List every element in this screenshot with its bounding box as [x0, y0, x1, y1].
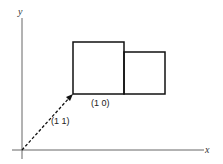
- edge-label: (1 0): [91, 98, 110, 108]
- diagram-canvas: y x (1 1) (1 0): [0, 0, 223, 164]
- small-rectangle: [124, 52, 165, 94]
- vector-label: (1 1): [51, 116, 70, 126]
- x-axis-label: x: [204, 144, 210, 155]
- large-square: [73, 42, 124, 94]
- y-axis-label: y: [17, 6, 23, 17]
